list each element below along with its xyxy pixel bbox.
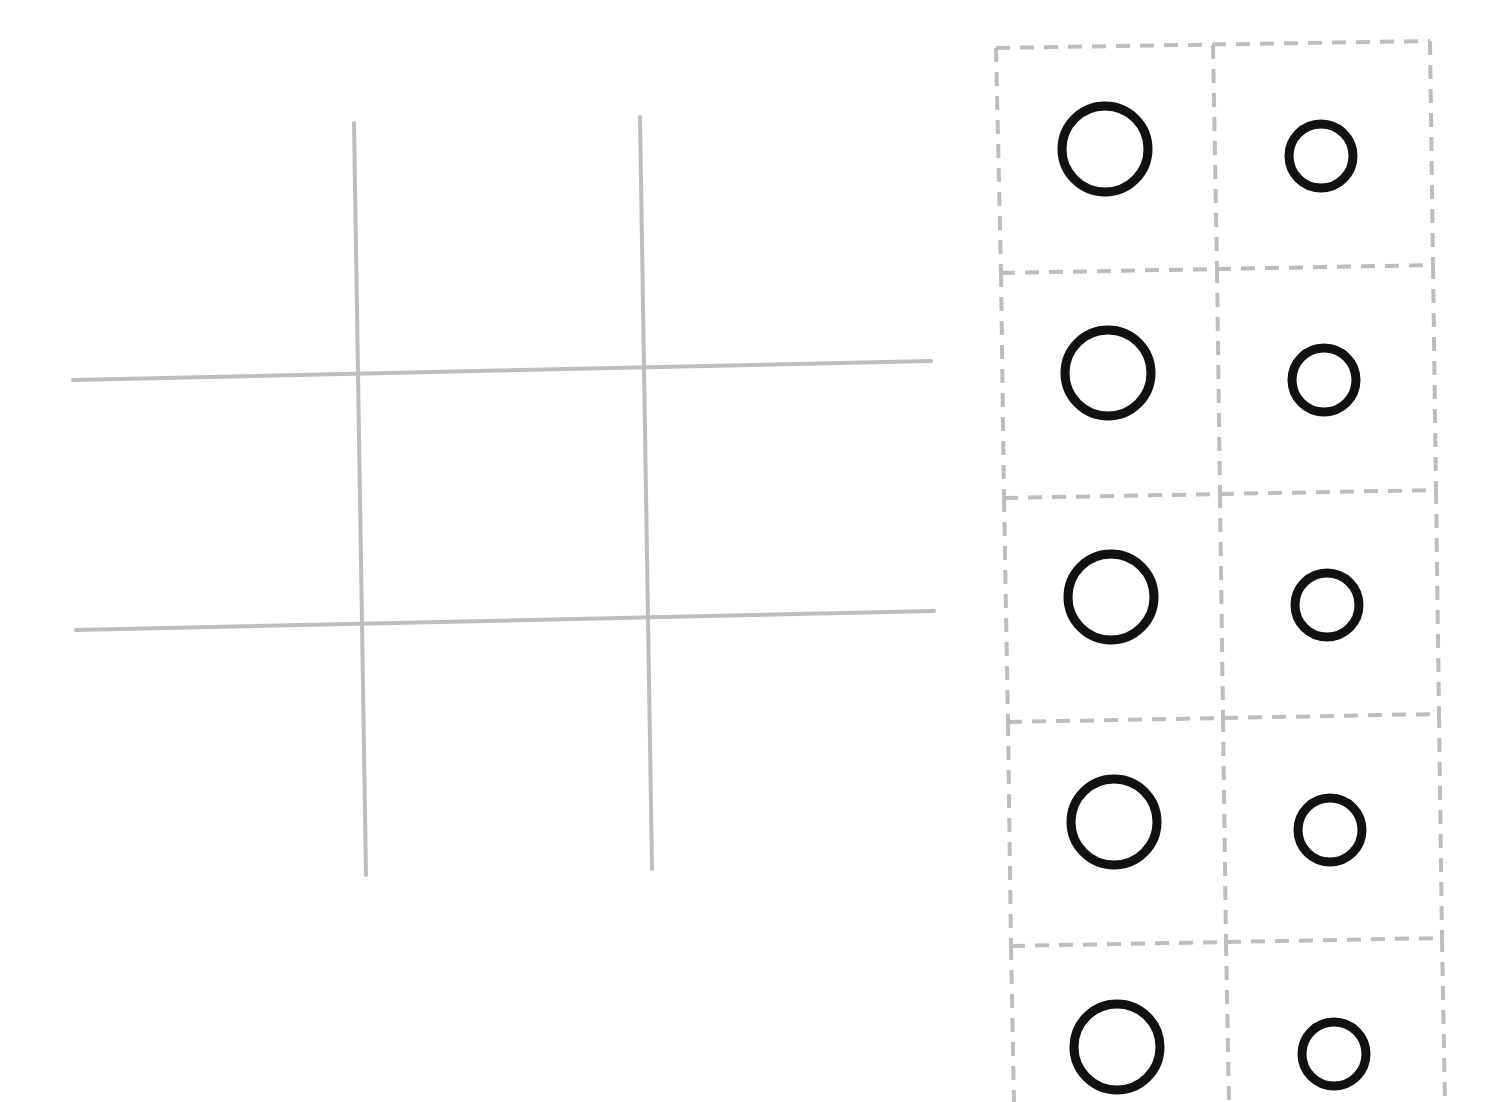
tray-divider	[1226, 942, 1229, 1102]
o-piece-small-icon[interactable]	[1289, 124, 1353, 188]
tray-divider	[1011, 946, 1014, 1102]
tray-divider	[1223, 718, 1226, 942]
tray-divider	[1217, 269, 1220, 494]
tray-divider	[1442, 938, 1445, 1102]
tray-divider	[1433, 265, 1436, 490]
tray-row-1	[996, 41, 1433, 273]
board-cell-r0-c0[interactable]	[85, 135, 345, 365]
o-piece-small-icon[interactable]	[1295, 573, 1359, 637]
tray-divider	[1436, 490, 1439, 714]
o-piece-large-icon[interactable]	[1074, 1004, 1160, 1090]
o-piece-large-icon[interactable]	[1068, 554, 1154, 640]
tray-row-4	[1008, 714, 1442, 946]
board-cells	[85, 125, 923, 865]
o-piece-large-icon[interactable]	[1071, 779, 1157, 865]
grid-line-vertical-2	[640, 117, 652, 869]
board-cell-r0-c2[interactable]	[657, 125, 917, 355]
o-piece-small-icon[interactable]	[1298, 798, 1362, 862]
tray-divider	[1439, 714, 1442, 938]
tray-divider	[1008, 722, 1011, 946]
tray-row-3	[1004, 490, 1439, 722]
board-cell-r2-c0[interactable]	[91, 635, 351, 865]
tray-divider	[1430, 41, 1433, 265]
tray-divider	[996, 48, 1001, 273]
board-cell-r2-c1[interactable]	[376, 630, 636, 860]
tray-divider	[1213, 45, 1217, 269]
tray-divider	[1220, 494, 1223, 718]
piece-tray	[996, 41, 1445, 1102]
grid-line-vertical-1	[354, 123, 366, 875]
tray-divider	[1001, 273, 1004, 498]
board-cell-r2-c2[interactable]	[663, 625, 923, 855]
board-cell-r1-c1[interactable]	[372, 380, 632, 610]
o-piece-small-icon[interactable]	[1292, 348, 1356, 412]
game-canvas	[0, 0, 1495, 1102]
tray-row-5	[1011, 938, 1445, 1102]
board-cell-r0-c1[interactable]	[368, 130, 628, 360]
tray-row-2	[1001, 265, 1436, 498]
o-piece-small-icon[interactable]	[1302, 1022, 1366, 1086]
o-piece-large-icon[interactable]	[1062, 106, 1148, 192]
tray-divider	[1004, 498, 1008, 722]
o-piece-large-icon[interactable]	[1065, 330, 1151, 416]
board-cell-r1-c0[interactable]	[88, 385, 348, 615]
board-cell-r1-c2[interactable]	[660, 375, 920, 605]
